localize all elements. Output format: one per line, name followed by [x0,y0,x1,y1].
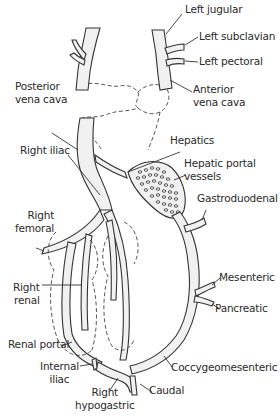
label-internal-iliac-line2: iliac [40,373,79,386]
label-posterior-vena-cava: Posterior vena cava [15,80,67,106]
label-gastroduodenal: Gastroduodenal [197,192,278,205]
label-coccygeomesenteric: Coccygeomesenteric [171,361,277,374]
label-hepatic-portal-line2: vessels [184,170,256,183]
label-right-renal-line1: Right [13,281,40,294]
label-anterior-vena-cava: Anterior vena cava [193,83,245,109]
label-left-subclavian: Left subclavian [199,30,275,43]
heart-outline [82,83,169,150]
label-posterior-vena-cava-line1: Posterior [15,80,67,93]
label-right-femoral-line1: Right [15,209,54,222]
label-mesenteric: Mesenteric [219,271,275,284]
label-internal-iliac: Internal iliac [40,360,79,386]
label-pancreatic: Pancreatic [215,302,268,315]
label-renal-portal: Renal portal [8,338,69,351]
right-anterior-vena-cava [70,28,100,90]
label-left-jugular: Left jugular [185,3,242,16]
label-posterior-vena-cava-line2: vena cava [15,93,67,106]
label-right-hypogastric-line1: Right [75,386,134,399]
label-hepatic-portal-vessels: Hepatic portal vessels [184,157,256,183]
hepatic-portal-vessels [128,162,185,219]
label-hepatic-portal-line1: Hepatic portal [184,157,256,170]
label-right-renal-line2: renal [13,294,40,307]
label-right-femoral-line2: femoral [15,222,54,235]
label-right-iliac: Right iliac [20,144,70,157]
label-caudal: Caudal [149,384,184,397]
label-internal-iliac-line1: Internal [40,360,79,373]
label-right-hypogastric: Right hypogastric [75,386,134,412]
left-anterior-vena-cava [152,30,184,90]
label-anterior-vena-cava-line2: vena cava [193,96,245,109]
label-hepatics: Hepatics [170,134,214,147]
label-anterior-vena-cava-line1: Anterior [193,83,245,96]
label-right-hypogastric-line2: hypogastric [75,399,134,412]
label-left-pectoral: Left pectoral [199,55,263,68]
hepatic-portal-vein [130,212,215,374]
posterior-vena-cava [77,118,127,210]
label-right-femoral: Right femoral [15,209,54,235]
label-right-renal: Right renal [13,281,40,307]
